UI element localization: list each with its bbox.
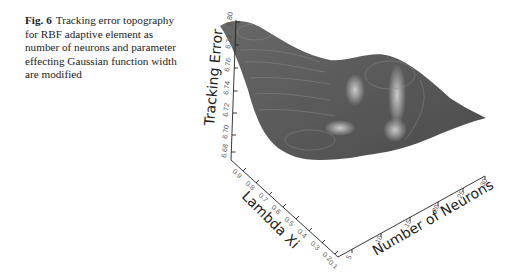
error-surface — [210, 10, 500, 170]
lambda-axis-ticks: 0.9 0.8 0.7 0.6 0.5 0.4 0.3 0.2 0.1 — [231, 168, 339, 271]
svg-text:6.72: 6.72 — [222, 103, 231, 118]
svg-text:0.1: 0.1 — [327, 259, 339, 271]
surface-plot: 6.68 6.70 6.72 6.74 6.76 6.78 6.80 Track… — [0, 0, 517, 279]
svg-text:5: 5 — [345, 254, 353, 261]
svg-text:0.3: 0.3 — [309, 240, 321, 252]
svg-text:6.68: 6.68 — [220, 144, 229, 159]
svg-text:6.76: 6.76 — [223, 58, 232, 73]
svg-text:6.78: 6.78 — [224, 35, 233, 50]
svg-text:6.70: 6.70 — [221, 125, 230, 140]
neurons-axis — [338, 176, 485, 257]
neurons-axis-label: Number of Neurons — [370, 176, 496, 258]
svg-text:6.74: 6.74 — [222, 81, 231, 96]
